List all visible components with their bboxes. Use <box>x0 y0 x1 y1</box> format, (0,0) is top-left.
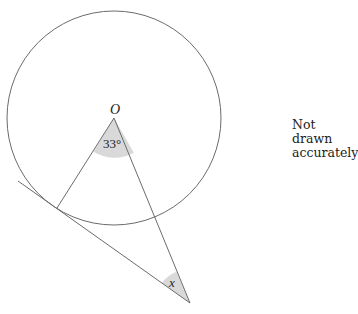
tangent-line <box>18 181 190 303</box>
center-angle-label: 33° <box>103 136 121 151</box>
note-line-1: Not drawn <box>292 118 358 146</box>
unknown-angle-label: x <box>168 275 175 290</box>
center-label: O <box>110 102 120 117</box>
radius-line <box>57 118 114 208</box>
external-angle-sector <box>162 272 190 303</box>
note-line-2: accurately <box>292 146 358 160</box>
not-drawn-accurately-note: Not drawn accurately <box>292 118 358 160</box>
secant-line <box>114 118 190 303</box>
